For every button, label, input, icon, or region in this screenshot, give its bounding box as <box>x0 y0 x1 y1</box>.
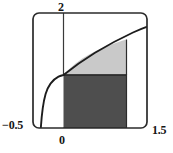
axis-label-bottom-right: 1.5 <box>152 124 166 136</box>
plot-figure: 2 −0.5 0 1.5 <box>0 0 173 153</box>
plot-canvas <box>0 0 173 153</box>
shaded-region-lower <box>64 75 127 128</box>
axis-label-bottom: 0 <box>59 134 65 146</box>
axis-label-left: −0.5 <box>2 119 23 131</box>
axis-label-top: 2 <box>58 1 64 13</box>
